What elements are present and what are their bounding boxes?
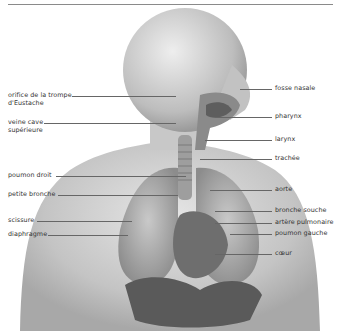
label-aorte: aorte: [275, 186, 292, 194]
label-coeur: cœur: [275, 250, 292, 258]
leader-line: [44, 123, 176, 124]
label-fosse-nasale: fosse nasale: [275, 85, 315, 93]
leader-line: [215, 117, 272, 118]
label-veine-cave-superieure: veine cave supérieure: [8, 119, 43, 134]
leader-line: [240, 89, 272, 90]
leader-line: [230, 234, 272, 235]
label-larynx: larynx: [275, 136, 295, 144]
leader-line: [210, 190, 272, 191]
leader-line: [215, 223, 272, 224]
label-scissure: scissure: [8, 217, 34, 225]
label-pharynx: pharynx: [275, 113, 302, 121]
leader-line: [205, 140, 272, 141]
anatomy-illustration: [0, 0, 341, 331]
leader-line: [215, 254, 272, 255]
leader-line: [215, 211, 272, 212]
label-diaphragme: diaphragme: [8, 231, 47, 239]
label-poumon-gauche: poumon gauche: [275, 230, 327, 238]
label-bronche-souche: bronche souche: [275, 207, 327, 215]
leader-line: [200, 159, 272, 160]
label-orifice-trompe-eustache: orifice de la trompe d'Eustache: [8, 92, 72, 107]
label-trachee: trachée: [275, 155, 300, 163]
leader-line: [58, 195, 178, 196]
leader-line: [48, 235, 128, 236]
leader-line: [72, 96, 176, 97]
label-petite-bronche: petite bronche: [8, 191, 55, 199]
label-artere-pulmonaire: artère pulmonaire: [275, 219, 333, 227]
label-poumon-droit: poumon droit: [8, 172, 52, 180]
leader-line: [56, 176, 186, 177]
leader-line: [37, 221, 132, 222]
